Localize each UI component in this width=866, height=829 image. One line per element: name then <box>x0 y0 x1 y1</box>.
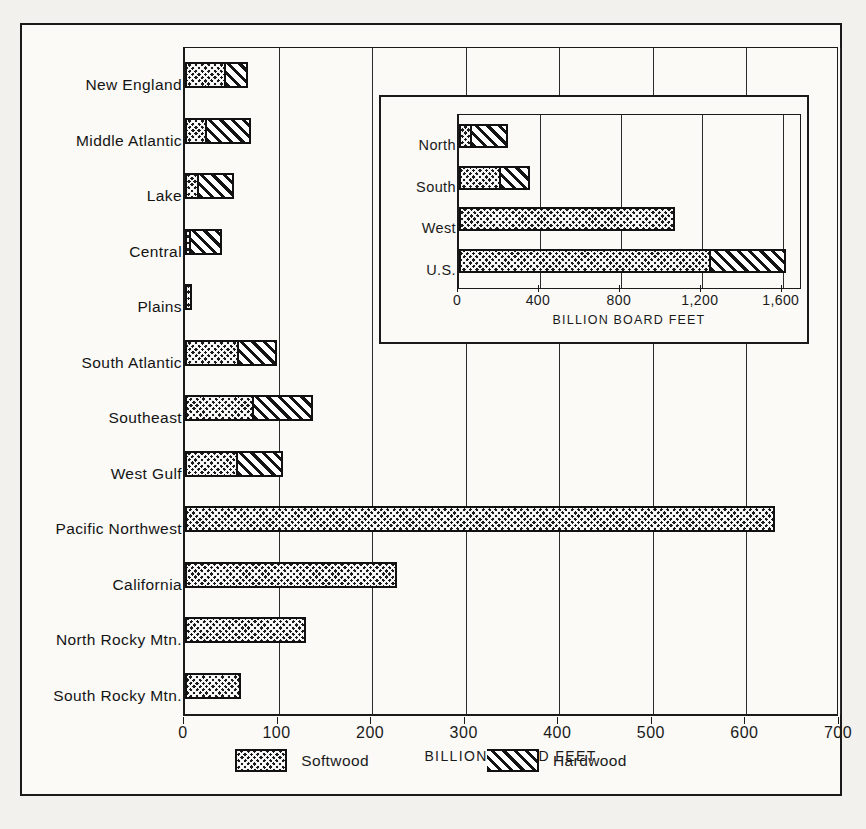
row-label-west-gulf: West Gulf <box>111 465 185 483</box>
legend-label-hardwood: Hardwood <box>553 752 627 770</box>
x-tick-label-500: 500 <box>637 724 665 742</box>
chart-row: South Rocky Mtn. <box>185 673 837 699</box>
x-tick-label-200: 200 <box>356 724 384 742</box>
x-tick-label-300: 300 <box>450 724 478 742</box>
inset-chart-frame: NorthSouthWestU.S. 04008001,2001,600 BIL… <box>379 95 809 344</box>
bar-segment-hardwood <box>709 251 784 271</box>
bar-segment-softwood <box>187 120 205 142</box>
x-tick-label-0: 0 <box>453 292 461 308</box>
bar-central <box>185 229 222 255</box>
bar-segment-softwood <box>461 251 709 271</box>
row-label-south-atlantic: South Atlantic <box>82 354 185 372</box>
row-label-north-rocky-mtn: North Rocky Mtn. <box>56 631 185 649</box>
main-x-axis: 0100200300400500600700 <box>183 724 838 748</box>
bar-west <box>459 207 675 231</box>
bar-segment-softwood <box>187 508 773 530</box>
bar-middle-atlantic <box>185 118 251 144</box>
bar-segment-softwood <box>187 619 304 641</box>
bar-segment-softwood <box>461 168 499 188</box>
x-tick-label-700: 700 <box>824 724 852 742</box>
x-tick-1200 <box>700 285 701 292</box>
bar-segment-hardwood <box>224 64 246 86</box>
row-label-north: North <box>419 137 459 153</box>
chart-row: South <box>459 166 800 190</box>
chart-row: California <box>185 562 837 588</box>
bar-u-s <box>459 249 786 273</box>
chart-row: Pacific Northwest <box>185 506 837 532</box>
chart-figure-frame: New EnglandMiddle AtlanticLakeCentralPla… <box>20 23 842 796</box>
x-tick-500 <box>651 717 652 724</box>
bar-segment-hardwood <box>189 231 221 253</box>
bar-southeast <box>185 395 313 421</box>
x-tick-1600 <box>781 285 782 292</box>
x-tick-label-400: 400 <box>526 292 551 308</box>
bar-segment-softwood <box>461 209 673 229</box>
bar-segment-hardwood <box>197 175 231 197</box>
x-tick-0 <box>457 285 458 292</box>
bar-north <box>459 124 508 148</box>
x-tick-0 <box>183 717 184 724</box>
bar-california <box>185 562 397 588</box>
x-tick-300 <box>464 717 465 724</box>
inset-chart-plot-area: NorthSouthWestU.S. <box>457 114 801 289</box>
row-label-lake: Lake <box>147 187 185 205</box>
bar-south <box>459 166 530 190</box>
inset-x-axis: 04008001,2001,600 <box>457 292 801 314</box>
inset-x-axis-title: BILLION BOARD FEET <box>457 313 801 327</box>
x-tick-label-100: 100 <box>262 724 290 742</box>
bar-segment-softwood <box>187 675 239 697</box>
row-label-plains: Plains <box>137 298 185 316</box>
x-tick-label-0: 0 <box>178 724 187 742</box>
bar-segment-softwood <box>187 64 224 86</box>
row-label-southeast: Southeast <box>109 409 185 427</box>
row-label-west: West <box>422 220 459 236</box>
legend-item-softwood: Softwood <box>235 749 369 772</box>
gridline-100 <box>279 48 280 714</box>
bar-pacific-northwest <box>185 506 775 532</box>
x-tick-200 <box>370 717 371 724</box>
x-tick-label-1200: 1,200 <box>681 292 718 308</box>
bar-segment-hardwood <box>237 342 275 364</box>
row-label-south: South <box>416 179 459 195</box>
x-tick-label-800: 800 <box>607 292 632 308</box>
legend-label-softwood: Softwood <box>301 752 369 770</box>
row-label-california: California <box>113 576 185 594</box>
bar-segment-hardwood <box>499 168 529 188</box>
bar-segment-softwood <box>187 175 197 197</box>
row-label-middle-atlantic: Middle Atlantic <box>76 132 185 150</box>
bar-west-gulf <box>185 451 283 477</box>
bar-segment-softwood <box>461 126 470 146</box>
row-label-south-rocky-mtn: South Rocky Mtn. <box>53 687 185 705</box>
bar-north-rocky-mtn <box>185 617 306 643</box>
bar-segment-softwood <box>187 453 236 475</box>
bar-plains <box>185 284 192 310</box>
bar-south-atlantic <box>185 340 277 366</box>
x-tick-label-600: 600 <box>730 724 758 742</box>
x-tick-800 <box>619 285 620 292</box>
x-tick-600 <box>744 717 745 724</box>
x-tick-label-400: 400 <box>543 724 571 742</box>
x-tick-400 <box>557 717 558 724</box>
chart-row: U.S. <box>459 249 800 273</box>
row-label-central: Central <box>129 243 185 261</box>
gridline-700 <box>840 48 841 714</box>
gridline-200 <box>372 48 373 714</box>
x-tick-700 <box>838 717 839 724</box>
legend-item-hardwood: Hardwood <box>487 749 627 772</box>
bar-segment-hardwood <box>470 126 506 146</box>
bar-new-england <box>185 62 248 88</box>
x-tick-label-1600: 1,600 <box>762 292 799 308</box>
chart-legend: Softwood Hardwood <box>22 749 840 772</box>
bar-south-rocky-mtn <box>185 673 241 699</box>
softwood-swatch-icon <box>235 749 287 772</box>
bar-segment-softwood <box>187 397 252 419</box>
row-label-pacific-northwest: Pacific Northwest <box>55 520 185 538</box>
chart-row: New England <box>185 62 837 88</box>
row-label-new-england: New England <box>85 76 185 94</box>
chart-row: North Rocky Mtn. <box>185 617 837 643</box>
chart-row: West Gulf <box>185 451 837 477</box>
bar-segment-softwood <box>187 286 190 308</box>
chart-row: Southeast <box>185 395 837 421</box>
bar-segment-hardwood <box>252 397 311 419</box>
chart-row: West <box>459 207 800 231</box>
